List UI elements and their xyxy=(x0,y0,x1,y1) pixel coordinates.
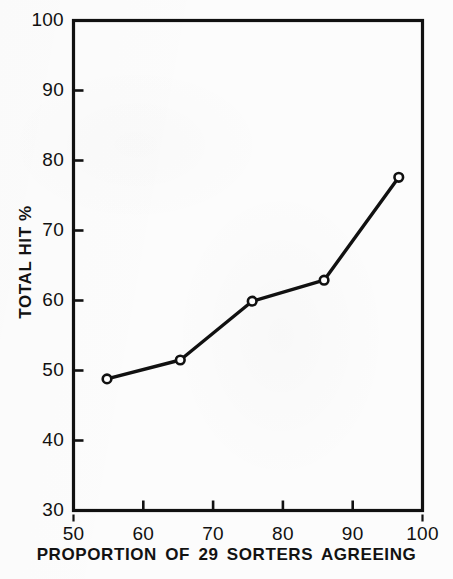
data-point-marker-0-1 xyxy=(176,356,185,365)
y-axis-title: TOTAL HIT % xyxy=(16,192,36,332)
x-axis-tick-label-80: 80 xyxy=(253,523,313,545)
x-axis-tick-label-100: 100 xyxy=(393,523,453,545)
line-chart-plot xyxy=(0,0,453,579)
x-axis-tick-label-50: 50 xyxy=(44,523,104,545)
x-axis-tick-label-90: 90 xyxy=(323,523,383,545)
axis-frame xyxy=(74,21,423,511)
data-point-marker-0-0 xyxy=(103,375,112,384)
y-axis-tick-label-80: 80 xyxy=(8,149,64,171)
chart-figure: 30405060708090100 5060708090100 PROPORTI… xyxy=(0,0,453,579)
x-axis-tick-label-70: 70 xyxy=(183,523,243,545)
y-axis-tick-label-30: 30 xyxy=(8,499,64,521)
data-point-markers xyxy=(103,173,403,383)
y-axis-tick-label-50: 50 xyxy=(8,359,64,381)
data-point-marker-0-3 xyxy=(320,276,329,285)
data-line-series xyxy=(107,177,399,379)
data-point-marker-0-4 xyxy=(394,173,403,182)
x-axis-title: PROPORTION OF 29 SORTERS AGREEING xyxy=(0,545,453,565)
data-point-marker-0-2 xyxy=(248,297,257,306)
y-axis-tick-label-40: 40 xyxy=(8,429,64,451)
y-axis-tick-label-90: 90 xyxy=(8,79,64,101)
y-axis-tick-label-100: 100 xyxy=(8,9,64,31)
x-axis-tick-label-60: 60 xyxy=(113,523,173,545)
